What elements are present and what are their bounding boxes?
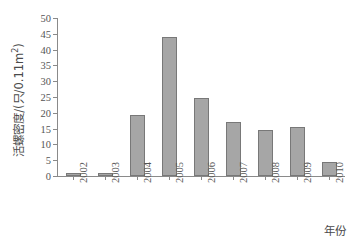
y-axis-tick: 45 <box>57 34 58 35</box>
y-axis-tick: 20 <box>57 113 58 114</box>
x-axis-tick-mark <box>73 176 74 180</box>
x-axis-tick-mark <box>233 176 234 180</box>
x-axis-tick-mark <box>137 176 138 180</box>
x-axis-tick-mark <box>201 176 202 180</box>
y-axis-tick: 30 <box>57 81 58 82</box>
y-axis-tick-mark <box>53 18 57 19</box>
y-axis-tick-mark <box>53 65 57 66</box>
y-axis-tick-mark <box>53 81 57 82</box>
y-axis-tick-mark <box>53 176 57 177</box>
x-axis-tick-mark <box>329 176 330 180</box>
y-axis-title: 活螺密度/(只/0.11m2) <box>10 20 26 180</box>
x-axis-tick-mark <box>105 176 106 180</box>
y-axis-tick-label: 30 <box>41 76 52 87</box>
y-axis-tick-label: 5 <box>46 155 51 166</box>
x-axis-tick-label: 2007 <box>238 162 249 183</box>
x-axis-tick-mark <box>265 176 266 180</box>
y-axis-tick-mark <box>53 97 57 98</box>
x-axis-tick-label: 2006 <box>206 162 217 183</box>
y-axis-tick-mark <box>53 160 57 161</box>
y-axis-tick-mark <box>53 113 57 114</box>
y-axis-tick-label: 45 <box>41 28 52 39</box>
x-axis-tick-mark <box>297 176 298 180</box>
y-axis-tick: 5 <box>57 160 58 161</box>
y-axis-tick-label: 50 <box>41 13 52 24</box>
y-axis-tick-mark <box>53 129 57 130</box>
y-axis-tick-label: 40 <box>41 44 52 55</box>
x-axis-tick-label: 2008 <box>270 162 281 183</box>
y-axis-tick: 25 <box>57 97 58 98</box>
y-axis-tick: 35 <box>57 65 58 66</box>
y-axis-title-prefix: 活螺密度/(只/0.11m <box>12 53 26 157</box>
x-axis-tick-mark <box>169 176 170 180</box>
y-axis-title-superscript: 2 <box>11 48 20 53</box>
bar <box>162 37 177 176</box>
y-axis-tick-mark <box>53 34 57 35</box>
x-axis-tick-label: 2004 <box>142 162 153 183</box>
y-axis-tick: 50 <box>57 18 58 19</box>
y-axis-tick-label: 25 <box>41 92 52 103</box>
y-axis-tick-label: 35 <box>41 60 52 71</box>
y-axis-tick: 0 <box>57 176 58 177</box>
x-axis-tick-label: 2009 <box>302 162 313 183</box>
y-axis-tick-label: 10 <box>41 139 52 150</box>
y-axis-tick-label: 20 <box>41 107 52 118</box>
y-axis-tick: 10 <box>57 144 58 145</box>
y-axis-tick-mark <box>53 144 57 145</box>
y-axis-tick: 40 <box>57 50 58 51</box>
y-axis-title-suffix: ) <box>12 43 26 48</box>
x-axis-tick-label: 2002 <box>78 162 89 183</box>
x-axis-title: 年份 <box>324 222 346 238</box>
x-axis-tick-label: 2003 <box>110 162 121 183</box>
bar-chart: 活螺密度/(只/0.11m2) 05101520253035404550 200… <box>0 0 358 243</box>
y-axis-tick-label: 0 <box>46 171 51 182</box>
y-axis-tick-label: 15 <box>41 123 52 134</box>
x-axis-tick-label: 2005 <box>174 162 185 183</box>
y-axis-tick-mark <box>53 50 57 51</box>
plot-area: 05101520253035404550 2002200320042005200… <box>57 18 345 177</box>
x-axis-tick-label: 2010 <box>334 162 345 183</box>
y-axis-tick: 15 <box>57 129 58 130</box>
